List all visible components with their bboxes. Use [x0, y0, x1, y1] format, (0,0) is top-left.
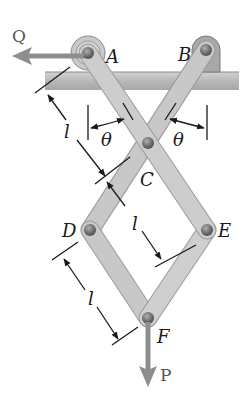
label-theta-left: θ: [101, 129, 112, 150]
pin-c: [142, 137, 154, 149]
label-b: B: [177, 44, 191, 65]
label-length-middle: l: [132, 213, 138, 234]
label-length-lower: l: [88, 288, 94, 309]
label-a: A: [104, 46, 119, 67]
pin-e: [201, 224, 213, 236]
label-c: C: [140, 169, 154, 190]
member-df: [90, 230, 148, 318]
pin-d: [84, 224, 96, 236]
force-p-arrow: [139, 322, 157, 387]
label-d: D: [61, 220, 77, 241]
ground-support: [45, 72, 239, 90]
label-length-upper: l: [64, 121, 70, 142]
pin-b: [200, 44, 212, 56]
label-f: F: [156, 326, 171, 347]
member-ef: [148, 230, 207, 318]
label-q: Q: [12, 26, 26, 46]
label-theta-right: θ: [173, 129, 184, 150]
label-e: E: [217, 220, 231, 241]
scissor-linkage-diagram: A B C D E F Q P l l l θ θ: [0, 0, 250, 400]
label-p: P: [160, 365, 171, 385]
